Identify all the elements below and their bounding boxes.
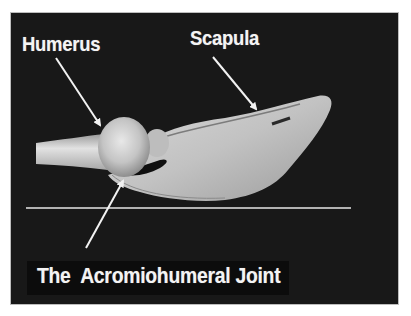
- image-panel: Humerus Scapula The Acromiohumeral Joint: [11, 13, 398, 304]
- acromiohumeral-joint-label: The Acromiohumeral Joint: [37, 263, 280, 289]
- humerus-label: Humerus: [22, 32, 100, 56]
- humerus-head: [98, 117, 150, 177]
- joint-arrow: [86, 181, 123, 248]
- humerus-arrow: [56, 58, 100, 125]
- scapula-arrow: [213, 57, 256, 109]
- humerus-shaft: [36, 134, 108, 170]
- scapula-label: Scapula: [190, 26, 259, 50]
